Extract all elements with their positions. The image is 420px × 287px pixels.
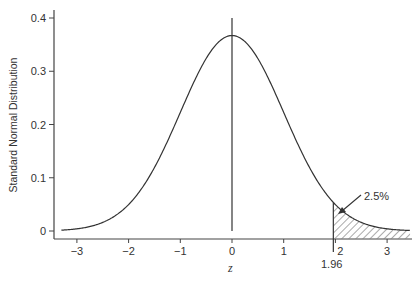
normal-distribution-chart: 00.10.20.30.4 −3−2−10123 2.5% 1.96 z Sta… (0, 0, 420, 287)
tail-percent-label: 2.5% (364, 190, 389, 202)
shaded-tail-region (333, 202, 410, 238)
x-tick-label: 3 (384, 245, 390, 257)
x-tick-label: −1 (174, 245, 187, 257)
y-tick-label: 0.3 (31, 65, 46, 77)
x-tick-label: 1 (281, 245, 287, 257)
x-tick-label: 0 (229, 245, 235, 257)
y-ticks: 00.10.20.30.4 (31, 12, 54, 237)
y-tick-label: 0.1 (31, 172, 46, 184)
density-curve (61, 36, 409, 231)
x-axis-title: z (227, 261, 233, 275)
x-ticks: −3−2−10123 (71, 239, 391, 257)
x-tick-label: −2 (122, 245, 135, 257)
y-axis-title: Standard Normal Distribution (7, 57, 19, 192)
critical-value-label: 1.96 (321, 258, 342, 270)
x-tick-label: 2 (337, 245, 343, 257)
annotation-arrow (342, 195, 361, 211)
y-tick-label: 0 (40, 225, 46, 237)
y-tick-label: 0.4 (31, 12, 46, 24)
y-tick-label: 0.2 (31, 119, 46, 131)
x-tick-label: −3 (71, 245, 84, 257)
